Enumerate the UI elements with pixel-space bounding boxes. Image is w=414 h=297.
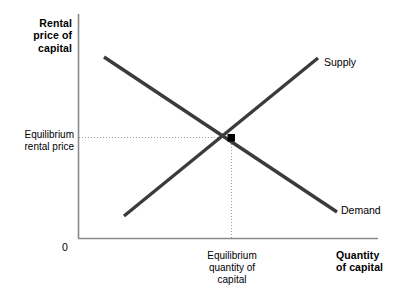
demand-curve (104, 57, 337, 212)
demand-curve-label: Demand (341, 204, 381, 216)
equilibrium-point-marker (228, 134, 236, 142)
equilibrium-rental-price-label: Equilibrium rental price (2, 129, 74, 153)
supply-curve-label: Supply (324, 56, 356, 68)
origin-label: 0 (58, 241, 72, 253)
equilibrium-quantity-label: Equilibrium quantity of capital (180, 250, 284, 285)
y-axis-title: Rental price of capital (0, 17, 72, 54)
supply-curve (124, 58, 318, 216)
supply-demand-diagram: Rental price of capital Quantity of capi… (0, 0, 414, 297)
x-axis-title: Quantity of capital (336, 249, 412, 274)
